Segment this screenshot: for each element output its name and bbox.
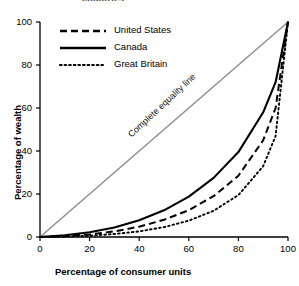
legend-label-great-britain: Great Britain bbox=[114, 58, 167, 69]
x-tick-label: 20 bbox=[70, 243, 110, 254]
x-tick-label: 0 bbox=[20, 243, 60, 254]
lorenz-curve-chart: countries 020406080100020406080100 Unite… bbox=[0, 0, 299, 286]
x-tick-label: 60 bbox=[169, 243, 209, 254]
y-axis-label: Percentage of wealth bbox=[12, 105, 23, 200]
legend-swatches-group bbox=[60, 31, 106, 65]
x-tick-label: 40 bbox=[119, 243, 159, 254]
x-tick-label: 100 bbox=[268, 243, 299, 254]
y-tick-label: 0 bbox=[0, 231, 32, 242]
y-tick-label: 100 bbox=[0, 16, 32, 27]
y-tick-label: 80 bbox=[0, 59, 32, 70]
equality-line-group bbox=[40, 22, 288, 237]
legend-label-canada: Canada bbox=[114, 41, 147, 52]
x-axis-label: Percentage of consumer units bbox=[55, 266, 191, 277]
legend-label-united-states: United States bbox=[114, 24, 171, 35]
x-tick-label: 80 bbox=[218, 243, 258, 254]
